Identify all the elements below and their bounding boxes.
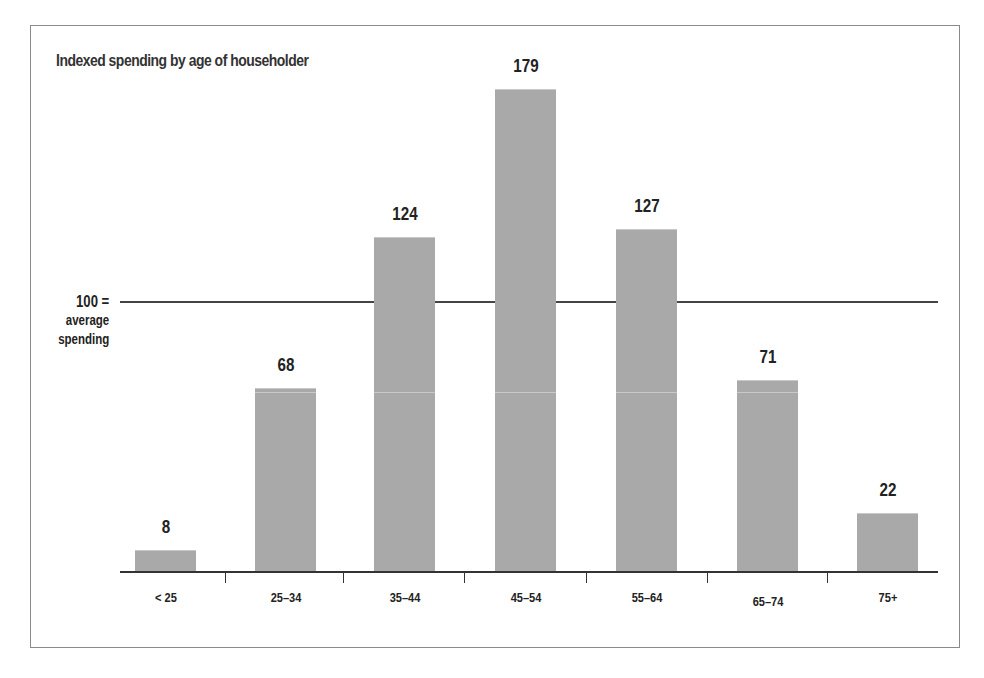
- x-axis-category-label: 25–34: [247, 590, 324, 605]
- reference-text-2: spending: [58, 330, 109, 349]
- bar-highlight: [135, 550, 196, 551]
- bar-faint-line: [255, 392, 316, 393]
- reference-value: 100 =: [58, 292, 109, 311]
- bar-faint-line: [374, 392, 435, 393]
- x-axis-tick: [827, 573, 828, 583]
- bar-value-label: 127: [615, 195, 679, 217]
- x-axis-tick: [586, 573, 587, 583]
- bar-highlight: [857, 513, 918, 514]
- x-axis-category-label: 65–74: [729, 594, 806, 609]
- bar: [495, 89, 556, 572]
- bar: [255, 388, 316, 572]
- bar-faint-line: [737, 392, 798, 393]
- bar: [135, 550, 196, 572]
- bar-value-label: 68: [254, 354, 318, 376]
- x-axis-tick: [464, 573, 465, 583]
- x-axis: [120, 571, 938, 573]
- bar-highlight: [495, 89, 556, 90]
- x-axis-tick: [707, 573, 708, 583]
- reference-line-label: 100 = average spending: [58, 292, 109, 349]
- bar-value-label: 124: [373, 203, 437, 225]
- bar-highlight: [255, 388, 316, 389]
- reference-text-1: average: [58, 311, 109, 330]
- x-axis-tick: [343, 573, 344, 583]
- bar-highlight: [374, 237, 435, 238]
- bar-faint-line: [616, 392, 677, 393]
- x-axis-category-label: 45–54: [487, 590, 564, 605]
- x-axis-category-label: 35–44: [366, 590, 443, 605]
- x-axis-category-label: < 25: [127, 590, 204, 605]
- bar-value-label: 179: [494, 55, 558, 77]
- x-axis-tick: [225, 573, 226, 583]
- x-axis-category-label: 55–64: [608, 590, 685, 605]
- bar-value-label: 22: [856, 479, 920, 501]
- bar-value-label: 71: [736, 346, 800, 368]
- bar: [857, 513, 918, 572]
- bar: [374, 237, 435, 572]
- bar-highlight: [616, 229, 677, 230]
- bar: [616, 229, 677, 572]
- bar: [737, 380, 798, 572]
- bar-faint-line: [495, 392, 556, 393]
- bar-highlight: [737, 380, 798, 381]
- bar-value-label: 8: [134, 516, 198, 538]
- chart-title: Indexed spending by age of householder: [56, 51, 308, 71]
- x-axis-category-label: 75+: [849, 590, 926, 605]
